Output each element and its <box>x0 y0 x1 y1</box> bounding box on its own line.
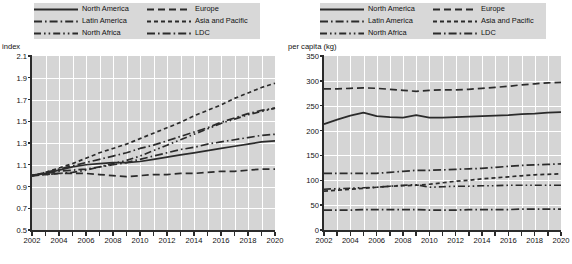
x-axis-tick <box>180 232 181 236</box>
x-axis-tick <box>376 232 377 236</box>
y-axis-tick-label: 300 <box>306 76 319 85</box>
plot-area-index: 0.50.70.91.11.31.51.71.92.12002200420062… <box>32 56 275 230</box>
legend-label: Europe <box>195 5 219 13</box>
x-axis-tick <box>234 232 235 236</box>
x-axis-tick <box>247 232 248 236</box>
legend-swatch-line <box>147 6 191 13</box>
legend-left: North AmericaEuropeLatin AmericaAsia and… <box>34 3 260 39</box>
legend-item-north-africa: North Africa <box>320 29 433 37</box>
y-axis-tick-label: 0.5 <box>16 226 27 235</box>
x-axis-tick <box>508 232 509 236</box>
x-axis-tick <box>481 232 482 236</box>
x-axis-tick <box>193 232 194 236</box>
y-axis-tick-label: 1.7 <box>16 95 27 104</box>
legend-item-europe: Europe <box>147 5 260 13</box>
series-line-asia-and-pacific <box>324 174 561 191</box>
x-axis-tick <box>468 232 469 236</box>
legend-item-latin-america: Latin America <box>34 17 147 25</box>
x-axis-tick <box>220 232 221 236</box>
y-axis-tick-label: 200 <box>306 126 319 135</box>
x-axis-tick <box>99 232 100 236</box>
x-axis-tick-label: 2002 <box>316 236 333 245</box>
x-axis-tick-label: 2006 <box>368 236 385 245</box>
x-axis-tick-label: 2016 <box>500 236 517 245</box>
x-axis-tick-label: 2008 <box>395 236 412 245</box>
legend-label: Latin America <box>82 17 127 25</box>
x-axis-tick <box>521 232 522 236</box>
y-axis-tick-label: 100 <box>306 176 319 185</box>
x-axis-tick-label: 2014 <box>474 236 491 245</box>
legend-label: LDC <box>195 29 210 37</box>
series-line-latin-america <box>324 164 561 173</box>
legend-label: Latin America <box>368 17 413 25</box>
legend-swatch-line <box>433 6 477 13</box>
legend-right: North AmericaEuropeLatin AmericaAsia and… <box>320 3 546 39</box>
series-line-latin-america <box>32 134 275 175</box>
x-axis-tick <box>139 232 140 236</box>
x-axis-tick-label: 2004 <box>51 236 68 245</box>
x-axis-tick <box>415 232 416 236</box>
legend-item-north-america: North America <box>34 5 147 13</box>
y-axis-tick-label: 1.9 <box>16 73 27 82</box>
legend-item-north-africa: North Africa <box>34 29 147 37</box>
legend-item-asia-and-pacific: Asia and Pacific <box>433 17 546 25</box>
legend-label: North Africa <box>368 29 407 37</box>
series-line-europe <box>324 82 561 91</box>
x-axis-tick <box>534 232 535 236</box>
x-axis-tick-label: 2018 <box>240 236 257 245</box>
plot-area-per-capita: 0501001502002503003502002200420062008201… <box>324 56 561 230</box>
legend-item-ldc: LDC <box>433 29 546 37</box>
x-axis-tick <box>126 232 127 236</box>
x-axis-tick <box>442 232 443 236</box>
y-axis-tick-label: 1.1 <box>16 160 27 169</box>
y-axis-tick-label: 250 <box>306 101 319 110</box>
x-axis-tick-label: 2008 <box>105 236 122 245</box>
chart-panel-per-capita: North AmericaEuropeLatin AmericaAsia and… <box>286 0 572 264</box>
legend-item-north-america: North America <box>320 5 433 13</box>
y-axis-tick-label: 350 <box>306 52 319 61</box>
series-line-asia-and-pacific <box>32 83 275 175</box>
legend-swatch-line <box>320 18 364 25</box>
legend-item-asia-and-pacific: Asia and Pacific <box>147 17 260 25</box>
legend-item-latin-america: Latin America <box>320 17 433 25</box>
x-axis-tick <box>494 232 495 236</box>
x-axis-tick-label: 2016 <box>213 236 230 245</box>
x-axis-tick <box>547 232 548 236</box>
grid-line-vertical <box>275 56 276 230</box>
x-axis-tick <box>363 232 364 236</box>
x-axis-tick-label: 2010 <box>421 236 438 245</box>
chart-panel-index: North AmericaEuropeLatin AmericaAsia and… <box>0 0 286 264</box>
x-axis-tick <box>560 232 561 236</box>
x-axis-tick <box>207 232 208 236</box>
x-axis-tick <box>31 232 32 236</box>
x-axis-tick-label: 2014 <box>186 236 203 245</box>
y-axis-title-left: index <box>2 42 20 51</box>
x-axis-tick-label: 2012 <box>159 236 176 245</box>
x-axis-tick <box>429 232 430 236</box>
legend-swatch-line <box>34 18 78 25</box>
x-axis-tick <box>72 232 73 236</box>
legend-swatch-line <box>433 30 477 37</box>
x-axis-tick <box>389 232 390 236</box>
x-axis-tick <box>336 232 337 236</box>
x-axis-tick <box>85 232 86 236</box>
series-layer <box>324 56 561 230</box>
x-axis-tick <box>274 232 275 236</box>
x-axis-tick <box>455 232 456 236</box>
y-axis-tick-label: 0.7 <box>16 204 27 213</box>
x-axis-tick <box>261 232 262 236</box>
legend-swatch-line <box>320 6 364 13</box>
legend-label: Europe <box>481 5 505 13</box>
legend-item-europe: Europe <box>433 5 546 13</box>
figure-root: North AmericaEuropeLatin AmericaAsia and… <box>0 0 572 264</box>
x-axis-tick-label: 2012 <box>447 236 464 245</box>
legend-label: North America <box>368 5 415 13</box>
y-axis-tick-label: 50 <box>311 201 319 210</box>
x-axis-tick-label: 2020 <box>553 236 570 245</box>
x-axis-tick <box>350 232 351 236</box>
x-axis-tick <box>45 232 46 236</box>
series-line-ldc <box>324 209 561 210</box>
legend-label: North Africa <box>82 29 121 37</box>
legend-item-ldc: LDC <box>147 29 260 37</box>
legend-swatch-line <box>34 30 78 37</box>
